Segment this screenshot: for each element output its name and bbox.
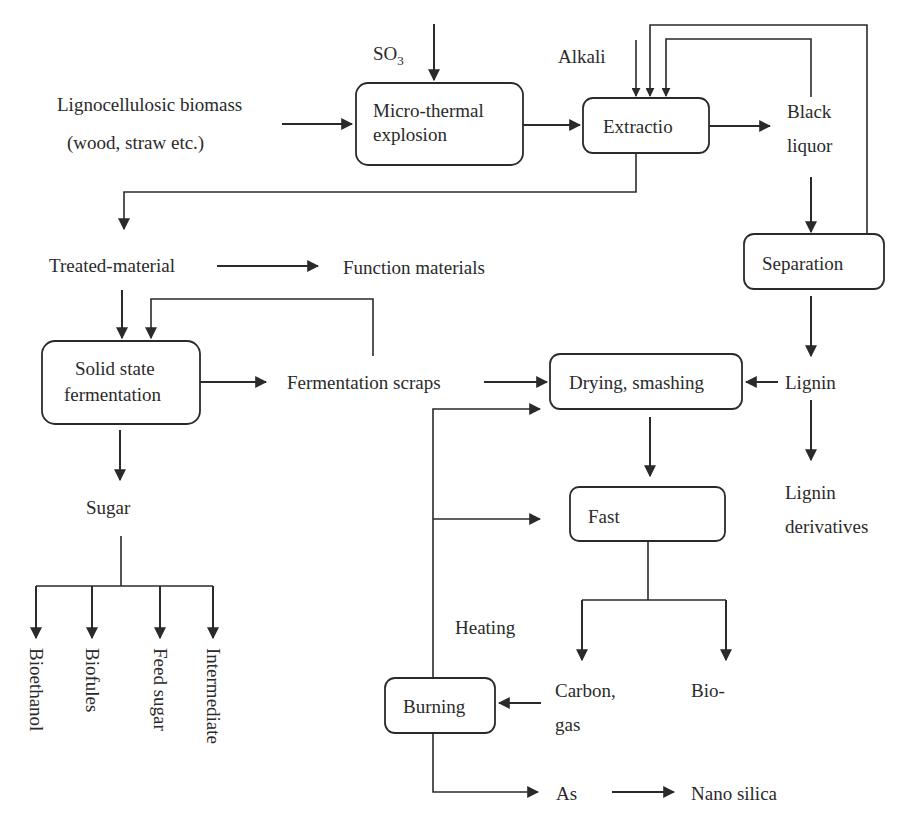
separation-box: Separation xyxy=(744,234,884,289)
svg-text:Micro-thermal: Micro-thermal xyxy=(373,100,484,121)
product-bioethanol: Bioethanol xyxy=(26,648,47,731)
fermentation-scraps-label: Fermentation scraps xyxy=(287,372,441,393)
nano-silica-label: Nano silica xyxy=(691,783,778,804)
lignin-derivatives-sublabel: derivatives xyxy=(785,516,868,537)
product-intermediate: Intermediate xyxy=(203,648,224,744)
burning-box: Burning xyxy=(385,678,495,733)
carbon-gas-sublabel: gas xyxy=(555,714,580,735)
carbon-gas-label: Carbon, xyxy=(555,680,616,701)
sugar-label: Sugar xyxy=(86,497,131,518)
arrow-black-liquor-recycle xyxy=(666,39,811,97)
lignin-label: Lignin xyxy=(785,372,836,393)
so3-label: SO3 xyxy=(373,43,404,68)
product-biofules: Biofules xyxy=(82,648,103,712)
svg-text:explosion: explosion xyxy=(373,124,447,145)
heating-label: Heating xyxy=(455,617,516,638)
function-materials-label: Function materials xyxy=(343,257,485,278)
bio-label: Bio- xyxy=(691,680,725,701)
ash-label: As xyxy=(556,783,577,804)
svg-text:Drying, smashing: Drying, smashing xyxy=(569,372,705,393)
black-liquor-label: Black xyxy=(787,101,832,122)
treated-material-label: Treated-material xyxy=(49,255,175,276)
lignin-derivatives-label: Lignin xyxy=(785,482,836,503)
biomass-sublabel: (wood, straw etc.) xyxy=(67,132,204,154)
alkali-label: Alkali xyxy=(558,46,606,67)
arrow-burning-to-ash xyxy=(433,733,538,792)
black-liquor-sublabel: liquor xyxy=(787,135,833,156)
micro-thermal-explosion-box: Micro-thermal explosion xyxy=(356,83,523,165)
svg-text:Separation: Separation xyxy=(762,253,844,274)
svg-text:Fast: Fast xyxy=(588,506,620,527)
process-flow-diagram: Lignocellulosic biomass (wood, straw etc… xyxy=(0,0,914,832)
svg-text:Burning: Burning xyxy=(403,696,466,717)
svg-text:Solid state: Solid state xyxy=(75,358,155,379)
product-feed-sugar: Feed sugar xyxy=(150,648,171,732)
biomass-label: Lignocellulosic biomass xyxy=(57,94,242,115)
fast-pyrolysis-box: Fast xyxy=(570,487,725,541)
extraction-box: Extractio xyxy=(583,98,709,153)
svg-text:Extractio: Extractio xyxy=(603,116,673,137)
solid-state-fermentation-box: Solid state fermentation xyxy=(42,341,200,424)
drying-smashing-box: Drying, smashing xyxy=(550,354,742,409)
svg-text:fermentation: fermentation xyxy=(64,384,162,405)
